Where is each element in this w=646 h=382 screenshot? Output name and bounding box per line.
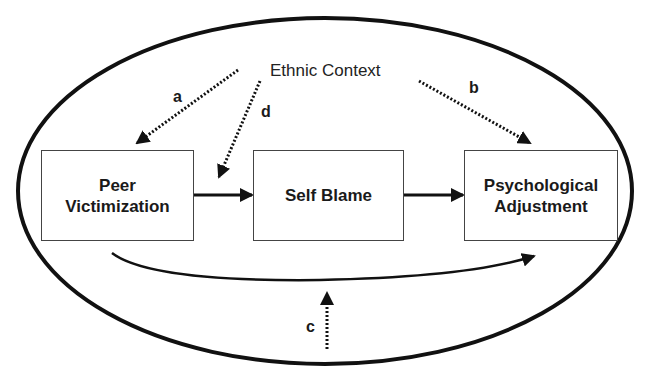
node-label: Self Blame: [285, 185, 372, 206]
arrow-direct-path: [112, 253, 534, 280]
node-psychological-adjustment: Psychological Adjustment: [464, 150, 618, 241]
node-label-line: Victimization: [65, 196, 170, 217]
path-label-c: c: [306, 318, 315, 336]
node-label-line: Psychological: [484, 175, 598, 196]
arrow-a-dotted: [137, 70, 238, 143]
path-label-a: a: [173, 88, 182, 106]
node-peer-victimization: Peer Victimization: [41, 150, 194, 241]
path-label-b: b: [469, 79, 479, 97]
node-self-blame: Self Blame: [253, 150, 404, 241]
ethnic-context-label: Ethnic Context: [270, 61, 381, 81]
path-label-d: d: [261, 103, 271, 121]
node-label-line: Peer: [65, 175, 170, 196]
node-label-line: Adjustment: [484, 196, 598, 217]
